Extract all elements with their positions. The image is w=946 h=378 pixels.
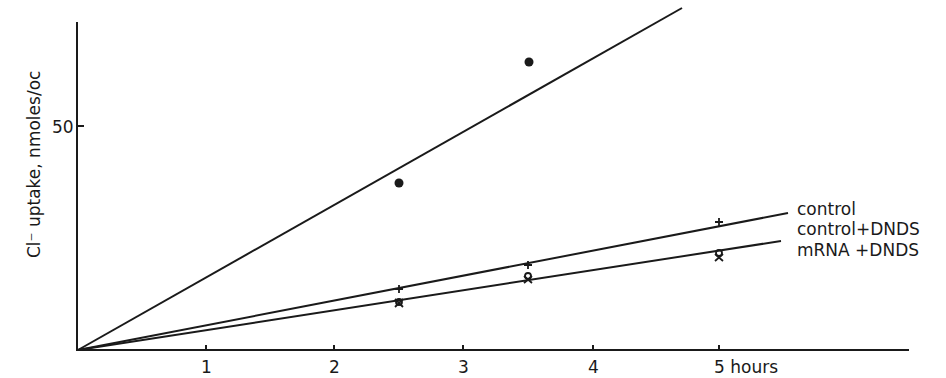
x-tick-label-3: 3: [458, 357, 469, 377]
fit-lines: [78, 8, 788, 350]
uptake-chart: 50 1 2 3 4 5 hours Cl⁻ uptake, nmoles/oc…: [0, 0, 946, 378]
control-point: [395, 285, 403, 293]
legend-control: control: [797, 199, 856, 219]
mrna-dnds-points: [395, 254, 723, 307]
dnds-fit-line: [78, 241, 781, 350]
mrna-points: [395, 58, 534, 188]
control-points: [395, 218, 723, 293]
legend-mrna-dnds: mRNA +DNDS: [797, 240, 919, 260]
mrna-point: [395, 179, 404, 188]
x-tick-label-1: 1: [201, 357, 212, 377]
x-tick-label-4: 4: [588, 357, 599, 377]
legend-control-dnds: control+DNDS: [797, 219, 920, 239]
x-tick-label-2: 2: [329, 357, 340, 377]
mrna-point: [525, 58, 534, 67]
y-tick-label-50: 50: [52, 117, 74, 137]
control-fit-line: [78, 213, 788, 350]
mrna-fit-line: [78, 8, 682, 350]
x-tick-label-5-hours: 5 hours: [714, 357, 778, 377]
axes: [76, 22, 909, 351]
mrna-dnds-point: [715, 254, 723, 261]
y-axis-label: Cl⁻ uptake, nmoles/oc: [24, 71, 44, 258]
